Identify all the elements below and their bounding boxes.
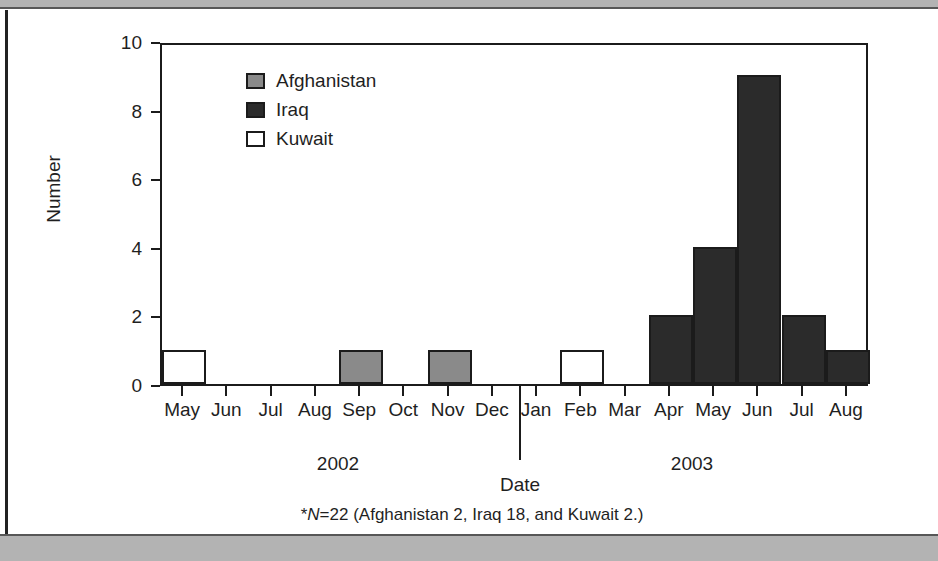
y-axis-tick-label: 10 [96,33,142,52]
x-axis-tick-label: Aug [811,399,881,421]
y-axis-tick [151,179,160,181]
bar-sep-4 [339,350,383,384]
legend-label-afghanistan: Afghanistan [276,70,376,92]
x-axis-tick [801,386,803,396]
y-axis-tick-label: 4 [96,239,142,258]
figure-page: 0246810 Number Afghanistan Iraq Kuwait [0,0,938,561]
x-axis-tick [579,386,581,396]
x-axis-tick [712,386,714,396]
y-axis-tick [151,42,160,44]
legend-item-kuwait: Kuwait [246,126,376,152]
legend-label-iraq: Iraq [276,99,309,121]
x-axis-title: Date [450,474,590,496]
x-axis-tick [535,386,537,396]
scan-edge-bottom [0,535,938,561]
legend-swatch-kuwait [246,131,265,147]
scan-edge-bottom-rule [0,534,938,536]
legend-label-kuwait: Kuwait [276,128,333,150]
y-axis-tick-label: 2 [96,307,142,326]
y-axis-title: Number [43,119,65,259]
plot-area: Afghanistan Iraq Kuwait [160,43,868,386]
legend-swatch-iraq [246,102,265,118]
x-axis-tick [225,386,227,396]
x-axis-tick [358,386,360,396]
footnote-n-symbol: N [307,505,319,524]
bar-jul-14 [782,315,826,384]
x-axis-tick [181,386,183,396]
x-axis-tick [402,386,404,396]
bar-aug-15 [826,350,870,384]
bar-nov-6 [428,350,472,384]
bar-apr-11 [649,315,693,384]
x-axis-tick [447,386,449,396]
bar-feb-9 [560,350,604,384]
figure-footnote: *N=22 (Afghanistan 2, Iraq 18, and Kuwai… [8,505,936,525]
bar-jun-13 [737,75,781,384]
y-axis-tick [151,248,160,250]
year-label-2002: 2002 [278,453,398,475]
footnote-text: =22 (Afghanistan 2, Iraq 18, and Kuwait … [320,505,644,524]
y-axis-tick-label: 8 [96,102,142,121]
y-axis-tick [151,111,160,113]
scan-edge-top-rule [0,7,938,9]
legend-item-afghanistan: Afghanistan [246,68,376,94]
figure-panel: 0246810 Number Afghanistan Iraq Kuwait [5,10,933,534]
x-axis-tick [624,386,626,396]
x-axis-tick [270,386,272,396]
x-axis-tick [845,386,847,396]
y-axis-tick [151,316,160,318]
x-axis-tick [491,386,493,396]
x-axis-tick [314,386,316,396]
y-axis-tick [151,385,160,387]
x-axis-tick [756,386,758,396]
y-axis-tick-label: 0 [96,376,142,395]
legend: Afghanistan Iraq Kuwait [246,68,376,155]
year-divider [519,386,521,460]
bar-may-0 [162,350,206,384]
bar-may-12 [693,247,737,384]
x-axis-tick [668,386,670,396]
legend-swatch-afghanistan [246,73,265,89]
y-axis-tick-label: 6 [96,170,142,189]
legend-item-iraq: Iraq [246,97,376,123]
year-label-2003: 2003 [632,453,752,475]
